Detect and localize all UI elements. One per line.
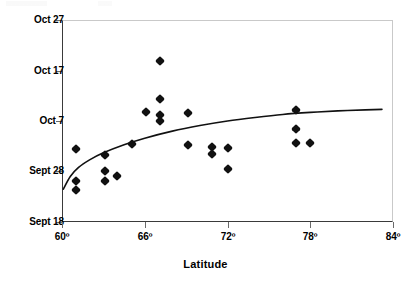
x-axis-tick-label: 78º — [303, 231, 317, 242]
x-axis-tick — [310, 222, 311, 228]
x-axis-tick-label: 66º — [138, 231, 152, 242]
data-point-marker — [224, 144, 231, 151]
y-axis-tick-label: Sept 18 — [29, 217, 64, 227]
cropped-title-artifact — [6, 1, 236, 6]
y-axis-tick-label: Oct 7 — [39, 116, 64, 126]
y-axis-tick-label: Oct 17 — [34, 66, 64, 76]
x-axis-tick — [393, 222, 394, 228]
x-axis-tick-label: 60º — [55, 231, 69, 242]
plot-area — [62, 20, 393, 222]
x-axis-tick-label: 84º — [386, 231, 400, 242]
x-axis-tick — [62, 222, 63, 228]
y-axis-tick-label: Sept 28 — [29, 166, 64, 176]
x-axis-title: Latitude — [0, 258, 411, 270]
x-axis-tick — [145, 222, 146, 228]
data-point-marker — [184, 109, 191, 116]
scatter-chart: Oct 27Oct 17Oct 7Sept 28Sept 18 60º66º72… — [0, 0, 411, 283]
x-axis-tick-label: 72º — [221, 231, 235, 242]
y-axis-tick-label: Oct 27 — [34, 15, 64, 25]
data-point-marker — [101, 177, 108, 184]
x-axis-tick — [228, 222, 229, 228]
